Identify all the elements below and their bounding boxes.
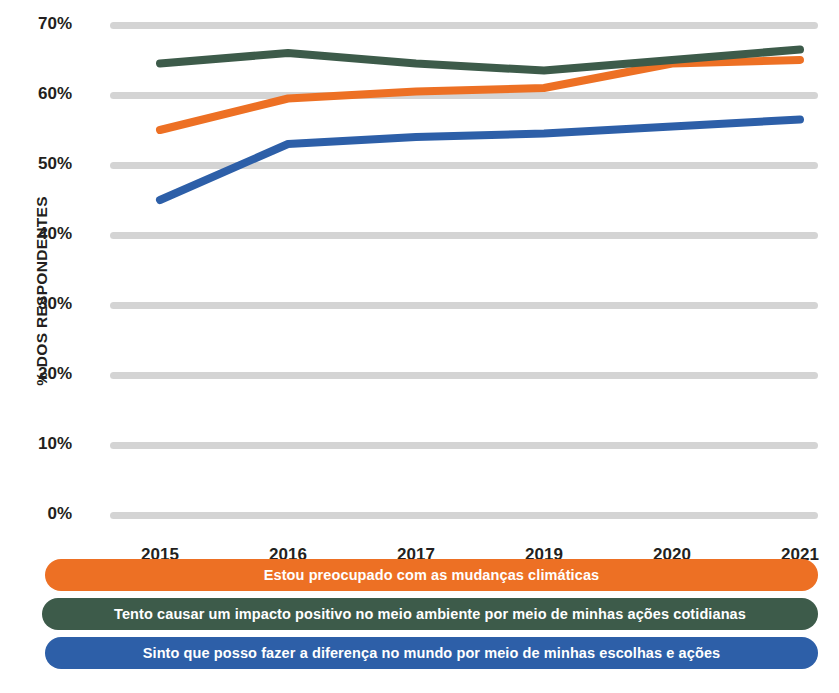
y-axis-tick-label: 50%	[0, 154, 72, 174]
y-axis-tick-label: 60%	[0, 84, 72, 104]
y-axis-tick-label: 30%	[0, 294, 72, 314]
series-line	[160, 50, 800, 71]
legend-item-label: Sinto que posso fazer a diferença no mun…	[131, 645, 732, 661]
plot-area: 0%10%20%30%40%50%60%70% 2015201620172019…	[110, 25, 820, 515]
series-lines	[110, 25, 820, 515]
series-line	[160, 120, 800, 201]
legend-item[interactable]: Tento causar um impacto positivo no meio…	[42, 598, 818, 630]
legend-item[interactable]: Estou preocupado com as mudanças climáti…	[45, 559, 818, 591]
legend-item-label: Tento causar um impacto positivo no meio…	[102, 606, 758, 622]
chart-legend: Estou preocupado com as mudanças climáti…	[0, 559, 839, 676]
y-axis-tick-label: 10%	[0, 434, 72, 454]
y-axis-tick-label: 40%	[0, 224, 72, 244]
line-chart: % DOS RESPONDENTES 0%10%20%30%40%50%60%7…	[0, 0, 839, 693]
y-axis-tick-label: 0%	[0, 504, 72, 524]
y-axis-tick-label: 70%	[0, 14, 72, 34]
y-axis-tick-label: 20%	[0, 364, 72, 384]
legend-item[interactable]: Sinto que posso fazer a diferença no mun…	[45, 637, 818, 669]
legend-item-label: Estou preocupado com as mudanças climáti…	[252, 567, 612, 583]
